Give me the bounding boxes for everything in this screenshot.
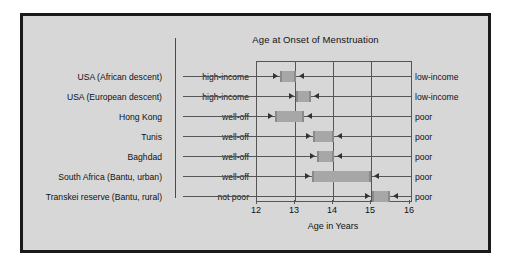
chart-frame: Age at Onset of Menstruation USA (Africa… — [20, 13, 491, 253]
tick-label-14: 14 — [320, 205, 344, 215]
tick-13 — [294, 200, 295, 204]
arrow-left-icon-5 — [337, 153, 342, 159]
row-label-country: South Africa (Bantu, urban) — [58, 168, 162, 186]
tick-14 — [332, 200, 333, 204]
bar-1 — [280, 71, 297, 82]
arrow-right-icon-2 — [289, 93, 294, 99]
arrow-left-icon-7 — [393, 193, 398, 199]
bar-2 — [296, 91, 311, 102]
arrow-right-icon-6 — [305, 173, 310, 179]
arrow-left-icon-3 — [307, 113, 312, 119]
row-label-right: poor — [415, 168, 432, 186]
tick-15 — [370, 200, 371, 204]
table-row: Hong Kong well-off poor — [23, 108, 488, 126]
row-label-country: Baghdad — [128, 148, 162, 166]
arrow-right-icon-7 — [365, 193, 370, 199]
tick-16 — [409, 200, 410, 204]
arrow-right-icon-4 — [306, 133, 311, 139]
row-label-left: well-off — [183, 168, 249, 186]
row-label-right: low-income — [415, 68, 458, 86]
table-row: USA (African descent) high-income low-in… — [23, 68, 488, 86]
row-label-left: not poor — [183, 188, 249, 206]
arrow-right-icon-3 — [268, 113, 273, 119]
row-label-right: poor — [415, 148, 432, 166]
tick-12 — [256, 200, 257, 204]
tick-label-15: 15 — [358, 205, 382, 215]
arrow-left-icon-4 — [337, 133, 342, 139]
row-label-right: poor — [415, 128, 432, 146]
table-row: Baghdad well-off poor — [23, 148, 488, 166]
arrow-right-icon-1 — [273, 73, 278, 79]
arrow-left-icon-1 — [299, 73, 304, 79]
arrow-left-icon-6 — [374, 173, 379, 179]
row-label-right: poor — [415, 188, 432, 206]
bar-6 — [312, 171, 371, 182]
bar-5 — [317, 151, 334, 162]
row-label-left: well-off — [183, 128, 249, 146]
baseline-4 — [183, 136, 411, 137]
row-label-left: well-off — [183, 108, 249, 126]
arrow-left-icon-2 — [314, 93, 319, 99]
row-label-right: poor — [415, 108, 432, 126]
row-label-country: USA (African descent) — [77, 68, 162, 86]
row-label-country: Transkei reserve (Bantu, rural) — [46, 188, 162, 206]
x-axis-title: Age in Years — [253, 221, 413, 231]
row-label-left: high-income — [183, 88, 249, 106]
tick-label-13: 13 — [282, 205, 306, 215]
row-label-left: well-off — [183, 148, 249, 166]
baseline-5 — [183, 156, 411, 157]
row-label-country: USA (European descent) — [67, 88, 162, 106]
chart-page: Age at Onset of Menstruation USA (Africa… — [0, 0, 509, 268]
row-label-country: Hong Kong — [119, 108, 162, 126]
row-label-left: high-income — [183, 68, 249, 86]
tick-label-12: 12 — [244, 205, 268, 215]
bar-7 — [372, 191, 390, 202]
bar-3 — [275, 111, 304, 122]
table-row: USA (European descent) high-income low-i… — [23, 88, 488, 106]
table-row: South Africa (Bantu, urban) well-off poo… — [23, 168, 488, 186]
chart-inner: Age at Onset of Menstruation USA (Africa… — [23, 16, 488, 250]
arrow-right-icon-5 — [310, 153, 315, 159]
row-label-right: low-income — [415, 88, 458, 106]
tick-label-16: 16 — [397, 205, 421, 215]
baseline-1 — [183, 76, 411, 77]
bar-4 — [313, 131, 334, 142]
row-label-country: Tunis — [141, 128, 162, 146]
table-row: Tunis well-off poor — [23, 128, 488, 146]
